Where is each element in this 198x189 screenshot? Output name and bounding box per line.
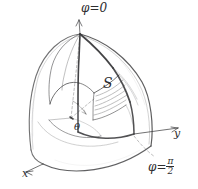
sphere-outline-left <box>29 34 80 150</box>
y-axis-line <box>134 128 178 134</box>
label-surface-patch: S <box>103 76 113 90</box>
label-polar-angle-theta: θ <box>74 122 80 132</box>
theta-arc-arrowhead <box>82 110 86 114</box>
x-axis-line <box>26 164 43 172</box>
cut-meridian-right-upper <box>80 34 113 68</box>
label-axis-x: x <box>22 168 28 179</box>
equals-symbol: = <box>156 160 166 174</box>
patch-band-bottom-boundary <box>93 105 126 120</box>
floor-radius-x <box>49 118 71 120</box>
fraction-denominator: 2 <box>166 167 174 176</box>
label-axis-y: y <box>174 128 180 139</box>
cut-meridian-right-foot <box>130 102 134 134</box>
label-phi-zero: φ=0 <box>81 2 107 14</box>
radius-to-patch-dashed <box>71 98 95 118</box>
label-phi-half-pi: φ=π2 <box>148 158 174 178</box>
figure-canvas: φ=0 φ=π2 y x S θ <box>0 0 198 189</box>
cut-face-left-arc <box>49 34 80 104</box>
sphere-rim-left-bottom <box>31 150 43 164</box>
theta-angle-arc <box>73 101 86 114</box>
patch-band-left-boundary <box>93 93 94 120</box>
pi-over-two-fraction: π2 <box>166 157 174 177</box>
origin-construction-lines <box>71 36 95 118</box>
sphere-equator-rim <box>43 146 151 171</box>
inner-cut-arc-left-2 <box>79 83 94 93</box>
